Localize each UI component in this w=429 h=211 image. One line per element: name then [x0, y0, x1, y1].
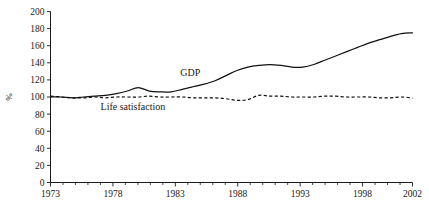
x-tick-label: 1973 — [41, 189, 60, 199]
life-satisfaction-series-label: Life satisfaction — [101, 101, 166, 112]
x-tick-label: 1978 — [103, 189, 122, 199]
y-tick-label: 20 — [35, 161, 45, 171]
y-tick-label: 120 — [30, 75, 45, 85]
x-tick-label: 1988 — [228, 189, 247, 199]
series-line-gdp — [51, 33, 413, 98]
y-tick-label: 100 — [30, 92, 45, 102]
y-tick-label: 60 — [35, 127, 45, 137]
gdp-series-label: GDP — [180, 67, 200, 78]
x-axis: 1973197819831988199319982002 — [41, 183, 422, 199]
y-tick-label: 200 — [30, 7, 45, 17]
data-series-group — [51, 33, 413, 101]
y-tick-label: 80 — [35, 110, 45, 120]
y-axis: 020406080100120140160180200 — [30, 7, 50, 188]
x-tick-label: 2002 — [403, 189, 422, 199]
y-tick-label: 160 — [30, 41, 45, 51]
x-tick-label: 1998 — [353, 189, 372, 199]
line-chart: 020406080100120140160180200 197319781983… — [0, 0, 429, 211]
y-tick-label: 140 — [30, 58, 45, 68]
y-tick-label: 180 — [30, 24, 45, 34]
x-tick-label: 1983 — [166, 189, 185, 199]
y-tick-label: 0 — [40, 178, 45, 188]
chart-container: 020406080100120140160180200 197319781983… — [0, 0, 429, 211]
series-annotations: GDPLife satisfaction — [101, 67, 201, 111]
y-axis-label: % — [4, 93, 14, 101]
y-tick-label: 40 — [35, 144, 45, 154]
y-axis-title: % — [4, 93, 14, 101]
x-tick-label: 1993 — [291, 189, 310, 199]
